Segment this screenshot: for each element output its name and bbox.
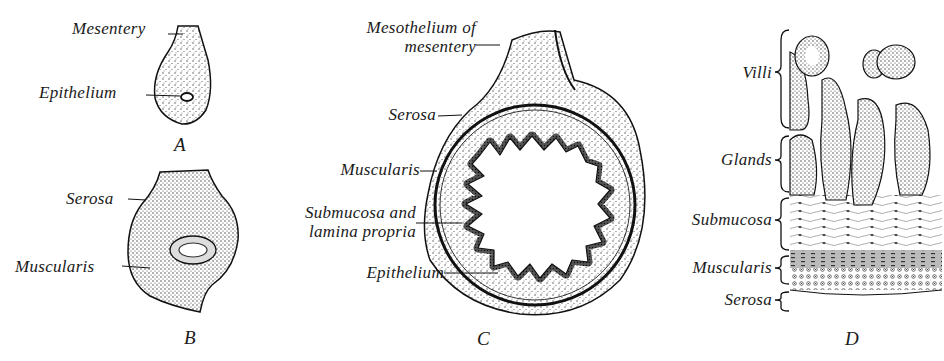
label-c-mesothelium-line2: mesentery [330,38,476,56]
label-a-mesentery: Mesentery [72,20,146,38]
label-c-epithelium: Epithelium [300,264,444,282]
label-b-serosa: Serosa [66,190,113,208]
panel-d-drawing [790,36,942,295]
label-d-muscularis: Muscularis [660,259,772,277]
panel-letter-d: D [845,328,859,350]
label-c-mesothelium-line1: Mesothelium of [330,19,476,37]
panel-letter-b: B [184,327,196,349]
label-a-epithelium: Epithelium [39,84,117,102]
label-c-submucosa-line1: Submucosa and [266,204,416,222]
panel-c-drawing [424,30,644,315]
label-d-glands: Glands [680,151,772,169]
panel-b-drawing [128,170,238,312]
panel-letter-c: C [477,328,490,350]
panel-letter-a: A [174,134,186,156]
brace-icons [775,30,789,311]
label-c-serosa: Serosa [330,106,436,124]
label-d-submucosa: Submucosa [660,211,772,229]
label-c-submucosa-line2: lamina propria [266,223,416,241]
panel-a-drawing [155,26,211,124]
label-b-muscularis: Muscularis [15,258,95,276]
label-d-serosa: Serosa [680,291,772,309]
label-c-muscularis: Muscularis [300,161,420,179]
label-d-villi: Villi [680,64,772,82]
